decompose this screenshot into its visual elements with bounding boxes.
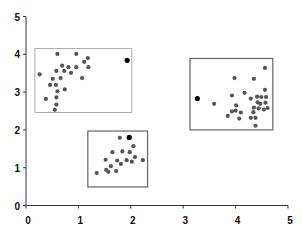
y-tick-label: 2 — [14, 125, 20, 136]
data-point — [51, 77, 55, 81]
data-point — [55, 89, 59, 93]
data-point — [104, 158, 108, 162]
data-point — [212, 102, 216, 106]
data-point — [230, 93, 234, 97]
data-point — [74, 65, 78, 69]
data-point — [110, 150, 114, 154]
data-point — [54, 102, 58, 106]
x-tick-label: 1 — [78, 215, 84, 226]
data-point — [234, 103, 238, 107]
data-point — [239, 110, 243, 114]
x-tick-label: 4 — [235, 215, 241, 226]
data-point — [130, 160, 134, 164]
data-point — [251, 110, 255, 114]
data-point — [264, 95, 268, 99]
outlier-point — [127, 135, 132, 140]
data-point — [230, 109, 234, 113]
y-axis-ticks: 012345 — [14, 12, 26, 212]
data-point — [118, 136, 122, 140]
scatter-chart: 012345 012345 — [0, 0, 302, 236]
data-point — [74, 52, 78, 56]
data-point — [128, 150, 132, 154]
data-point — [249, 96, 253, 100]
data-point — [249, 116, 253, 120]
data-point — [62, 69, 66, 73]
data-point — [115, 158, 119, 162]
data-point — [253, 124, 257, 128]
data-point — [55, 52, 59, 56]
data-point — [80, 76, 84, 80]
data-point — [58, 76, 62, 80]
cluster-1-box — [35, 49, 132, 113]
data-point — [237, 116, 241, 120]
cluster-boxes — [35, 49, 273, 187]
data-point — [69, 71, 73, 75]
data-point — [257, 106, 261, 110]
data-point — [259, 95, 263, 99]
data-point — [54, 95, 58, 99]
data-point — [141, 158, 145, 162]
data-point — [86, 56, 90, 60]
data-point — [133, 155, 137, 159]
data-point — [109, 164, 113, 168]
data-point — [242, 91, 246, 95]
y-tick-label: 0 — [14, 201, 20, 212]
x-axis-ticks: 012345 — [25, 206, 293, 227]
data-point — [131, 144, 135, 148]
data-point — [252, 77, 256, 81]
data-points — [38, 52, 270, 175]
x-tick-label: 5 — [287, 215, 293, 226]
x-tick-label: 0 — [25, 215, 31, 226]
data-point — [114, 169, 118, 173]
data-point — [258, 102, 262, 106]
x-tick-label: 3 — [182, 215, 188, 226]
outlier-point — [125, 58, 130, 63]
data-point — [262, 107, 266, 111]
y-tick-label: 5 — [14, 12, 20, 23]
data-point — [66, 65, 70, 69]
x-tick-label: 2 — [130, 215, 136, 226]
data-point — [106, 170, 110, 174]
data-point — [119, 162, 123, 166]
data-point — [48, 83, 52, 87]
data-point — [253, 116, 257, 120]
data-point — [125, 158, 129, 162]
data-point — [44, 97, 48, 101]
data-point — [53, 108, 57, 112]
outlier-point — [195, 96, 200, 101]
data-point — [54, 69, 58, 73]
data-point — [82, 60, 86, 64]
data-point — [95, 171, 99, 175]
data-point — [263, 66, 267, 70]
y-tick-label: 4 — [14, 49, 20, 60]
data-point — [38, 72, 42, 76]
data-point — [252, 105, 256, 109]
y-tick-label: 1 — [14, 163, 20, 174]
data-point — [234, 109, 238, 113]
data-point — [120, 149, 124, 153]
data-point — [54, 83, 58, 87]
data-point — [60, 64, 64, 68]
data-point — [255, 95, 259, 99]
data-point — [63, 87, 67, 91]
y-tick-label: 3 — [14, 87, 20, 98]
data-point — [86, 65, 90, 69]
data-point — [263, 88, 267, 92]
data-point — [263, 101, 267, 105]
data-point — [226, 114, 230, 118]
data-point — [265, 106, 269, 110]
data-point — [232, 76, 236, 80]
